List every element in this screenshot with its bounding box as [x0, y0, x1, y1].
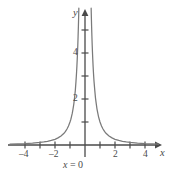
graph-figure: x y –4 –2 2 4 2 4 x = 0	[0, 0, 170, 179]
axes-group	[8, 9, 162, 157]
y-axis-label: y	[73, 8, 78, 19]
curve-right-branch	[91, 8, 158, 144]
x-tick-label-neg4: –4	[19, 150, 29, 160]
x-tick-label-2: 2	[113, 150, 118, 160]
asymptote-annotation: x = 0	[63, 160, 83, 170]
x-tick-label-neg2: –2	[49, 150, 59, 160]
asymptote-equation-rest: = 0	[67, 159, 83, 170]
x-axis-label: x	[160, 148, 165, 159]
y-tick-label-2: 2	[73, 94, 78, 104]
x-tick-label-4: 4	[143, 150, 148, 160]
y-axis-arrowhead	[82, 9, 89, 16]
curve-left-branch	[10, 8, 79, 144]
y-tick-label-4: 4	[73, 48, 78, 58]
